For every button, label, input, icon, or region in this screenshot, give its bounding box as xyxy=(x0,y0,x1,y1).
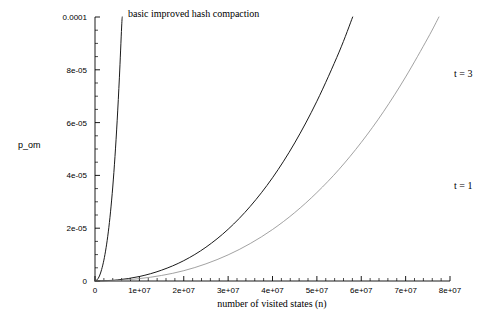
x-tick-label: 3e+07 xyxy=(217,286,240,295)
x-tick-label: 5e+07 xyxy=(306,286,329,295)
curve-annotation: t = 1 xyxy=(454,180,472,191)
curve-t-1 xyxy=(95,17,439,281)
tick-labels: 02e-054e-056e-058e-050.000101e+072e+073e… xyxy=(63,13,462,295)
chart-container: 02e-054e-056e-058e-050.000101e+072e+073e… xyxy=(0,0,478,319)
y-tick-label: 6e-05 xyxy=(67,119,88,128)
axes xyxy=(95,17,450,281)
plot-title: basic improved hash compaction xyxy=(128,8,259,19)
data-curves xyxy=(95,17,439,281)
text-labels: basic improved hash compactionp_omnumber… xyxy=(18,8,472,310)
tick-marks xyxy=(95,17,450,281)
y-tick-label: 0.0001 xyxy=(63,13,88,22)
y-axis-title: p_om xyxy=(18,140,41,150)
plot-area: 02e-054e-056e-058e-050.000101e+072e+073e… xyxy=(0,0,478,319)
x-tick-label: 8e+07 xyxy=(439,286,462,295)
x-tick-label: 1e+07 xyxy=(128,286,151,295)
x-tick-label: 2e+07 xyxy=(173,286,196,295)
x-tick-label: 7e+07 xyxy=(394,286,417,295)
x-tick-label: 4e+07 xyxy=(261,286,284,295)
curve-basic xyxy=(95,17,122,281)
curve-annotation: t = 3 xyxy=(454,68,472,79)
y-tick-label: 2e-05 xyxy=(67,224,88,233)
x-tick-label: 0 xyxy=(93,286,98,295)
y-tick-label: 8e-05 xyxy=(67,66,88,75)
x-axis-title: number of visited states (n) xyxy=(217,298,326,310)
curve-t-3 xyxy=(95,17,353,281)
y-tick-label: 4e-05 xyxy=(67,171,88,180)
y-tick-label: 0 xyxy=(83,277,88,286)
x-tick-label: 6e+07 xyxy=(350,286,373,295)
